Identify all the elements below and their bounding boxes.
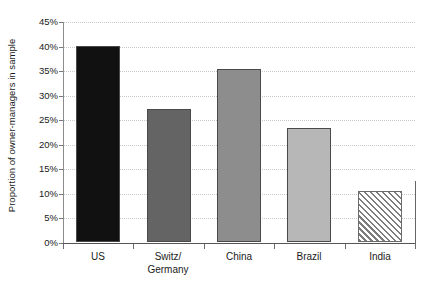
y-axis-tick-label: 40% [22, 42, 58, 52]
y-axis-title-text: Proportion of owner-managers in sample [7, 38, 18, 212]
y-axis-tick-mark [59, 169, 63, 170]
x-axis-tick-label-line: US [63, 250, 133, 263]
x-axis-tick-mark [274, 244, 275, 249]
x-axis-tick-mark [345, 244, 346, 249]
bar-chart-figure: Proportion of owner-managers in sample 4… [0, 0, 429, 294]
y-axis-tick-label: 15% [22, 164, 58, 174]
x-axis-tick-label: Switz/Germany [133, 250, 203, 276]
x-axis-tick-label-line: Germany [133, 263, 203, 276]
y-axis-tick-mark [59, 47, 63, 48]
bar[interactable] [287, 128, 331, 242]
y-axis-tick-mark [59, 120, 63, 121]
y-axis-tick-label: 5% [22, 213, 58, 223]
y-axis-tick-label: 45% [22, 17, 58, 27]
x-axis-tick-mark [133, 244, 134, 249]
y-axis-tick-mark [59, 145, 63, 146]
y-axis-tick-mark [59, 22, 63, 23]
bar[interactable] [358, 191, 402, 242]
y-axis-tick-mark [59, 194, 63, 195]
x-axis-tick-label-group: USSwitz/GermanyChinaBrazilIndia [63, 250, 416, 292]
y-axis-tick-label: 10% [22, 189, 58, 199]
y-axis-tick-label-group: 45%40%35%30%25%20%15%10%5%0% [22, 22, 58, 243]
y-axis-tick-mark [59, 71, 63, 72]
plot-area [63, 22, 415, 243]
x-axis-line [63, 243, 416, 244]
y-axis-tick-label: 20% [22, 140, 58, 150]
bar[interactable] [217, 69, 261, 242]
bar[interactable] [76, 46, 120, 242]
x-axis-tick-label: US [63, 250, 133, 263]
y-axis-line [63, 22, 64, 244]
y-axis-tick-mark [59, 96, 63, 97]
x-axis-tick-label: Brazil [274, 250, 344, 263]
x-axis-tick-label-line: Brazil [274, 250, 344, 263]
x-axis-tick-mark [204, 244, 205, 249]
gridline [64, 22, 415, 23]
right-axis-line [415, 181, 416, 244]
x-axis-tick-mark [415, 244, 416, 249]
x-axis-tick-label-line: China [204, 250, 274, 263]
y-axis-tick-label: 30% [22, 91, 58, 101]
y-axis-title: Proportion of owner-managers in sample [0, 0, 24, 250]
x-axis-tick-label: China [204, 250, 274, 263]
y-axis-tick-label: 25% [22, 115, 58, 125]
bar[interactable] [147, 109, 191, 242]
y-axis-tick-label: 0% [22, 238, 58, 248]
y-axis-tick-label: 35% [22, 66, 58, 76]
x-axis-tick-mark [63, 244, 64, 249]
y-axis-tick-mark [59, 218, 63, 219]
x-axis-tick-label-line: India [345, 250, 415, 263]
x-axis-tick-label-line: Switz/ [133, 250, 203, 263]
x-axis-tick-label: India [345, 250, 415, 263]
